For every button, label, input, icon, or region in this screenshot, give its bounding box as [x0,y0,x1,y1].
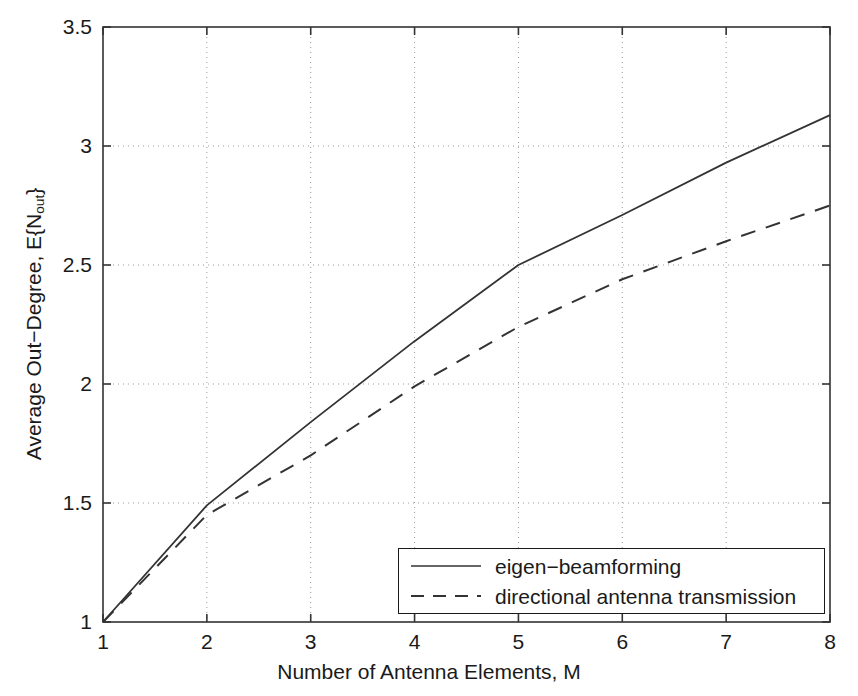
series-line-0 [103,115,830,622]
legend-item-eigen-beamforming: eigen−beamforming [409,551,681,581]
plot-frame [103,27,830,622]
chart-legend: eigen−beamforming directional antenna tr… [398,548,825,614]
x-tick-label: 5 [513,630,525,654]
x-tick-label: 2 [201,630,213,654]
y-axis-title-subscript: out [32,195,47,214]
x-tick-label: 3 [305,630,317,654]
legend-line-sample-solid [409,559,483,573]
x-tick-label: 4 [409,630,421,654]
chart-figure: 11.522.533.5 12345678 Average Out−Degree… [0,0,858,696]
legend-label-0: eigen−beamforming [495,556,681,577]
y-axis-title: Average Out−Degree, E{Nout} [22,24,52,624]
x-tick-label: 7 [720,630,732,654]
x-axis-title: Number of Antenna Elements, M [0,660,858,684]
gridlines [103,27,830,622]
legend-line-sample-dashed [409,589,483,603]
x-tick-label: 8 [824,630,836,654]
legend-label-1: directional antenna transmission [495,586,796,607]
y-axis-title-main: Average Out−Degree, E{N [22,214,45,461]
legend-item-directional-antenna-transmission: directional antenna transmission [409,581,796,611]
x-tick-label: 1 [97,630,109,654]
axis-ticks [103,27,830,622]
x-tick-label: 6 [616,630,628,654]
data-series-layer [103,115,830,622]
y-axis-title-tail: } [22,188,45,195]
